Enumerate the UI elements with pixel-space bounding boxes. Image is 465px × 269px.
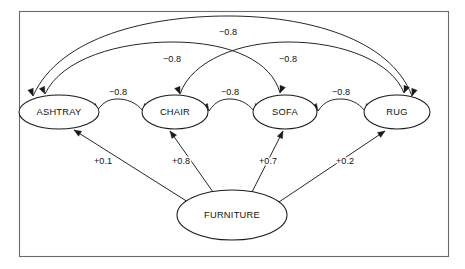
edge-weight-furniture-sofa: +0.7 xyxy=(259,156,277,166)
nodes-layer: ASHTRAYCHAIRSOFARUGFURNITURE xyxy=(19,95,430,240)
edge-furniture-rug xyxy=(279,131,385,202)
semantic-network-diagram: ASHTRAYCHAIRSOFARUGFURNITURE −0.8−0.8−0.… xyxy=(0,0,465,269)
edge-sofa-rug xyxy=(312,99,372,111)
arrowhead-furniture-sofa-end xyxy=(277,131,283,139)
arrowhead-ashtray-sofa-end xyxy=(280,85,285,93)
arrowhead-furniture-rug-end xyxy=(377,131,385,137)
node-furniture[interactable]: FURNITURE xyxy=(177,190,287,240)
arrowhead-ashtray-rug-start xyxy=(28,88,33,96)
edge-path-chair-sofa xyxy=(209,99,254,111)
edge-weight-furniture-chair: +0.8 xyxy=(172,156,190,166)
node-sofa[interactable]: SOFA xyxy=(253,95,317,129)
edge-path-ashtray-sofa xyxy=(45,42,280,94)
edge-weight-ashtray-sofa: −0.8 xyxy=(163,54,181,64)
node-rug[interactable]: RUG xyxy=(364,95,430,129)
edge-weight-ashtray-chair: −0.8 xyxy=(109,87,127,97)
diagram-canvas: ASHTRAYCHAIRSOFARUGFURNITURE −0.8−0.8−0.… xyxy=(0,0,465,269)
edge-weight-ashtray-rug: −0.8 xyxy=(219,27,237,37)
node-label-sofa: SOFA xyxy=(272,107,298,117)
arrowhead-ashtray-sofa-start xyxy=(39,86,45,94)
edge-weight-chair-sofa: −0.8 xyxy=(221,87,239,97)
edge-path-chair-rug xyxy=(180,42,404,94)
node-chair[interactable]: CHAIR xyxy=(142,95,208,129)
arrowhead-chair-rug-start xyxy=(175,86,180,94)
node-label-chair: CHAIR xyxy=(160,107,190,117)
node-ashtray[interactable]: ASHTRAY xyxy=(19,95,99,129)
edge-chair-rug xyxy=(175,42,410,94)
edge-path-sofa-rug xyxy=(318,99,365,111)
edge-weight-furniture-rug: +0.2 xyxy=(336,156,354,166)
edge-path-furniture-ashtray xyxy=(74,130,188,202)
edge-chair-sofa xyxy=(203,99,261,111)
edge-furniture-ashtray xyxy=(74,130,188,202)
node-label-ashtray: ASHTRAY xyxy=(37,107,82,117)
edge-weight-chair-rug: −0.8 xyxy=(279,54,297,64)
edge-weight-furniture-ashtray: +0.1 xyxy=(94,156,112,166)
edge-weight-sofa-rug: −0.8 xyxy=(332,87,350,97)
edge-path-ashtray-chair xyxy=(97,99,143,111)
node-label-rug: RUG xyxy=(386,107,407,117)
arrowhead-furniture-chair-end xyxy=(170,131,177,139)
edge-ashtray-chair xyxy=(91,99,150,111)
node-label-furniture: FURNITURE xyxy=(204,210,260,220)
arrowhead-ashtray-rug-end xyxy=(412,88,417,96)
edge-path-furniture-rug xyxy=(279,131,385,202)
arrowhead-furniture-ashtray-end xyxy=(74,130,82,136)
